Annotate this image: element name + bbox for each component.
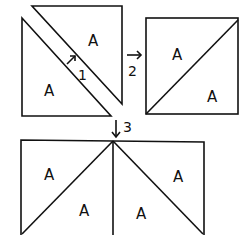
label-a-2: A <box>79 202 90 220</box>
right-diagonal-seam <box>113 141 203 234</box>
label-upper-a: A <box>88 32 99 50</box>
step-3-joined-blocks: A A A A <box>21 140 204 235</box>
label-a-4: A <box>173 168 184 186</box>
label-lower-a: A <box>207 88 218 106</box>
diagram-canvas: A A 1 2 A A 3 A A A A <box>0 0 240 235</box>
diagonal-seam <box>146 20 238 114</box>
step-1-separated-triangles: A A 1 <box>22 6 122 116</box>
label-a-1: A <box>44 166 55 184</box>
label-lower-a: A <box>44 82 55 100</box>
label-upper-a: A <box>172 46 183 64</box>
step-3-indicator: 3 <box>112 119 132 137</box>
label-a-3: A <box>136 205 147 223</box>
step-2-indicator: 2 <box>127 51 141 79</box>
step-3-number: 3 <box>123 119 132 135</box>
step-1-arrow-icon <box>67 56 75 64</box>
step-1-number: 1 <box>78 67 87 83</box>
step-2-half-square-triangle: A A <box>146 18 238 114</box>
step-2-number: 2 <box>128 63 137 79</box>
left-diagonal-seam <box>22 141 113 234</box>
